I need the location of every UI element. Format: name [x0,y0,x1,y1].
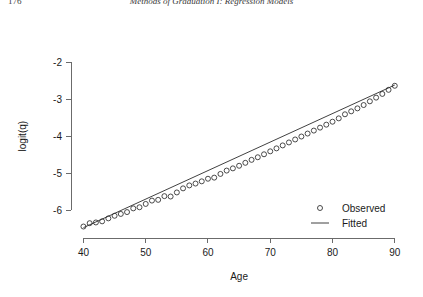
y-tick-label: -6 [53,205,62,216]
observed-data-point [342,112,347,117]
observed-data-point [330,119,335,124]
observed-data-point [149,198,154,203]
observed-data-point [280,143,285,148]
y-tick-label: -5 [53,168,62,179]
y-axis-ticks: -2-3-4-5-6 [53,57,71,216]
observed-data-point [274,146,279,151]
observed-data-point [361,103,366,108]
observed-data-point [255,155,260,160]
observed-data-point [324,122,329,127]
observed-data-point [286,140,291,145]
legend-observed-marker-icon [318,206,323,211]
x-axis-ticks: 405060708090 [78,238,401,258]
observed-data-point [156,197,161,202]
observed-data-point [143,201,148,206]
y-axis: -2-3-4-5-6 logit(q) [17,57,71,216]
observed-data-point [181,186,186,191]
observed-data-point [293,137,298,142]
running-head: Methods of Graduation I: Regression Mode… [0,0,423,6]
y-tick-label: -4 [53,131,62,142]
observed-data-point [237,163,242,168]
figure-container: -2-3-4-5-6 logit(q) 405060708090 Age Obs… [0,12,423,297]
x-tick-label: 50 [140,247,152,258]
observed-data-point [374,95,379,100]
x-axis-title: Age [230,271,248,282]
y-axis-title: logit(q) [17,121,28,152]
x-axis: 405060708090 Age [78,238,401,282]
page-header: 176 Methods of Graduation I: Regression … [0,0,423,12]
observed-data-point [249,157,254,162]
observed-data-point [243,160,248,165]
observed-data-point [174,190,179,195]
y-tick-label: -3 [53,94,62,105]
observed-data-point [125,210,130,215]
observed-data-point [100,219,105,224]
observed-data-point [218,171,223,176]
observed-data-point [187,183,192,188]
observed-data-point [224,168,229,173]
observed-data-point [336,116,341,121]
observed-data-point [305,131,310,136]
observed-data-point [268,149,273,154]
observed-data-point [168,194,173,199]
observed-data-point [380,91,385,96]
legend-observed-label: Observed [342,203,385,214]
observed-data-point [299,134,304,139]
observed-data-point [367,99,372,104]
x-tick-label: 80 [327,247,339,258]
observed-data-point [349,109,354,114]
observed-data-point [162,194,167,199]
x-tick-label: 70 [265,247,277,258]
observed-data-point [131,206,136,211]
observed-data-point [199,179,204,184]
observed-data-point [137,205,142,210]
observed-data-point [193,181,198,186]
observed-data-point [230,166,235,171]
chart-legend: Observed Fitted [311,203,385,229]
observed-data-point [355,106,360,111]
observed-data-point [118,211,123,216]
x-tick-label: 60 [202,247,214,258]
observed-data-point [112,213,117,218]
observed-data-point [311,128,316,133]
observed-data-point [205,176,210,181]
observed-data-point [262,152,267,157]
x-tick-label: 40 [78,247,90,258]
legend-fitted-label: Fitted [342,218,367,229]
y-tick-label: -2 [53,57,62,68]
observed-data-point [212,175,217,180]
observed-data-point [318,125,323,130]
regression-scatter-chart: -2-3-4-5-6 logit(q) 405060708090 Age Obs… [0,12,423,297]
x-tick-label: 90 [389,247,401,258]
